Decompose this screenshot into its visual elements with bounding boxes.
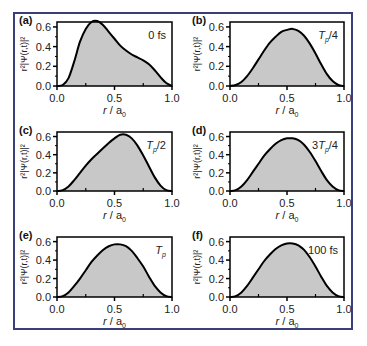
y-tick-label: 0.0 xyxy=(36,80,51,92)
x-tick-label: 0.5 xyxy=(107,303,122,315)
y-tick-label: 0.6 xyxy=(209,236,224,248)
x-tick-label: 1.0 xyxy=(336,92,351,104)
y-tick-label: 0.0 xyxy=(209,185,224,197)
y-tick-label: 0.0 xyxy=(209,80,224,92)
panel-e: 0.00.20.40.60.00.51.0r / a0r²|Ψ(r,t)|²(e… xyxy=(19,229,180,329)
x-axis-label: r / a0 xyxy=(276,104,299,118)
x-tick-label: 0.5 xyxy=(279,197,294,209)
panel-f: 0.00.20.40.60.00.51.0r / a0r²|Ψ(r,t)|²(f… xyxy=(192,229,352,329)
y-axis-label: r²|Ψ(r,t)|² xyxy=(19,37,29,72)
y-tick-label: 0.4 xyxy=(209,254,224,266)
panel-label: (a) xyxy=(19,14,33,26)
y-tick-label: 0.4 xyxy=(36,41,51,53)
x-tick-label: 0.0 xyxy=(49,197,64,209)
time-annotation: 100 fs xyxy=(308,244,338,256)
y-tick-label: 0.6 xyxy=(36,131,51,143)
x-tick-label: 1.0 xyxy=(336,197,351,209)
y-tick-label: 0.2 xyxy=(36,167,51,179)
panel-c: 0.00.20.40.60.00.51.0r / a0r²|Ψ(r,t)|²(c… xyxy=(19,124,180,223)
time-annotation: Tp/2 xyxy=(146,139,166,154)
x-tick-label: 0.5 xyxy=(279,92,294,104)
y-tick-label: 0.6 xyxy=(36,21,51,33)
panel-label: (d) xyxy=(192,124,206,136)
x-axis-label: r / a0 xyxy=(276,315,299,329)
y-axis-label: r²|Ψ(r,t)|² xyxy=(19,250,29,285)
x-axis-label: r / a0 xyxy=(276,209,299,223)
panel-label: (e) xyxy=(19,229,33,241)
x-axis-label: r / a0 xyxy=(103,209,126,223)
y-tick-label: 0.6 xyxy=(209,131,224,143)
x-tick-label: 0.5 xyxy=(107,197,122,209)
y-tick-label: 0.2 xyxy=(36,60,51,72)
time-annotation: Tp/4 xyxy=(318,29,338,44)
x-tick-label: 0.5 xyxy=(279,303,294,315)
y-axis-label: r²|Ψ(r,t)|² xyxy=(192,37,202,72)
y-tick-label: 0.4 xyxy=(36,254,51,266)
panel-b: 0.00.20.40.60.00.51.0r / a0r²|Ψ(r,t)|²(b… xyxy=(192,14,352,118)
x-tick-label: 0.0 xyxy=(222,303,237,315)
x-tick-label: 0.0 xyxy=(222,92,237,104)
y-tick-label: 0.2 xyxy=(209,273,224,285)
y-tick-label: 0.2 xyxy=(209,60,224,72)
y-axis-label: r²|Ψ(r,t)|² xyxy=(192,250,202,285)
x-tick-label: 0.0 xyxy=(49,303,64,315)
multi-panel-chart: 0.00.20.40.60.00.51.0r / a0r²|Ψ(r,t)|²(a… xyxy=(0,0,367,346)
panel-label: (b) xyxy=(192,14,206,26)
y-tick-label: 0.6 xyxy=(209,21,224,33)
y-tick-label: 0.2 xyxy=(209,167,224,179)
area-fill xyxy=(57,134,172,191)
x-tick-label: 1.0 xyxy=(164,92,179,104)
y-tick-label: 0.4 xyxy=(209,41,224,53)
x-tick-label: 1.0 xyxy=(164,303,179,315)
x-tick-label: 1.0 xyxy=(164,197,179,209)
panel-label: (f) xyxy=(192,229,203,241)
x-axis-label: r / a0 xyxy=(103,104,126,118)
y-tick-label: 0.6 xyxy=(36,236,51,248)
x-tick-label: 0.0 xyxy=(49,92,64,104)
panel-d: 0.00.20.40.60.00.51.0r / a0r²|Ψ(r,t)|²(d… xyxy=(192,124,352,223)
x-tick-label: 0.0 xyxy=(222,197,237,209)
y-tick-label: 0.4 xyxy=(209,149,224,161)
y-tick-label: 0.0 xyxy=(36,185,51,197)
time-annotation: Tp xyxy=(155,244,166,259)
x-axis-label: r / a0 xyxy=(103,315,126,329)
x-tick-label: 1.0 xyxy=(336,303,351,315)
y-tick-label: 0.2 xyxy=(36,273,51,285)
y-tick-label: 0.0 xyxy=(36,291,51,303)
y-tick-label: 0.0 xyxy=(209,291,224,303)
y-axis-label: r²|Ψ(r,t)|² xyxy=(192,144,202,179)
y-axis-label: r²|Ψ(r,t)|² xyxy=(19,144,29,179)
y-tick-label: 0.4 xyxy=(36,149,51,161)
panel-a: 0.00.20.40.60.00.51.0r / a0r²|Ψ(r,t)|²(a… xyxy=(19,14,180,118)
time-annotation: 0 fs xyxy=(148,29,166,41)
panel-label: (c) xyxy=(19,124,33,136)
time-annotation: 3Tp/4 xyxy=(312,139,338,154)
x-tick-label: 0.5 xyxy=(107,92,122,104)
